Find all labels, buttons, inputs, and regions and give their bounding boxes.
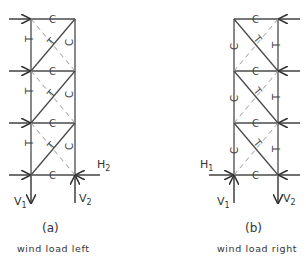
member-label-c: C bbox=[64, 143, 75, 150]
member-label-c: C bbox=[64, 91, 75, 98]
reaction-h1-label: H1 bbox=[200, 158, 213, 173]
truss-diagram: C C C C C C C T T T T T T V1 V2 H2 (a) w… bbox=[0, 0, 306, 262]
member-label-t: T bbox=[44, 35, 58, 48]
member-label-t: T bbox=[271, 41, 282, 49]
member-label-c: C bbox=[64, 39, 75, 46]
figure-b-truss: C C C C C C C T T T T T T V1 V2 H1 (b) w… bbox=[200, 14, 300, 254]
member-label-t: T bbox=[44, 87, 58, 100]
figure-b-description: wind load right bbox=[217, 243, 297, 254]
figure-a-truss: C C C C C C C T T T T T T V1 V2 H2 (a) w… bbox=[9, 14, 110, 254]
member-label-t: T bbox=[24, 87, 35, 95]
reaction-v1-label: V1 bbox=[14, 195, 27, 210]
reaction-h2-label: H2 bbox=[97, 158, 110, 173]
member-label-c: C bbox=[49, 118, 56, 129]
reaction-v2-label: V2 bbox=[79, 192, 92, 207]
figure-a-description: wind load left bbox=[17, 243, 90, 254]
member-label-c: C bbox=[49, 170, 56, 181]
reaction-v2-label: V2 bbox=[283, 192, 296, 207]
figure-b-caption: (b) bbox=[245, 221, 262, 235]
member-label-c: C bbox=[49, 14, 56, 25]
member-label-c: C bbox=[252, 118, 259, 129]
member-label-c: C bbox=[252, 66, 259, 77]
member-label-c: C bbox=[252, 14, 259, 25]
reaction-v1-label: V1 bbox=[217, 195, 230, 210]
member-label-c: C bbox=[229, 43, 240, 50]
member-label-c: C bbox=[252, 170, 259, 181]
member-label-c: C bbox=[49, 66, 56, 77]
member-label-c: C bbox=[229, 147, 240, 154]
figure-a-caption: (a) bbox=[42, 221, 59, 235]
member-label-t: T bbox=[271, 93, 282, 101]
member-label-c: C bbox=[229, 95, 240, 102]
member-label-t: T bbox=[24, 139, 35, 147]
member-label-t: T bbox=[44, 139, 58, 152]
member-label-t: T bbox=[271, 145, 282, 153]
member-label-t: T bbox=[24, 35, 35, 43]
